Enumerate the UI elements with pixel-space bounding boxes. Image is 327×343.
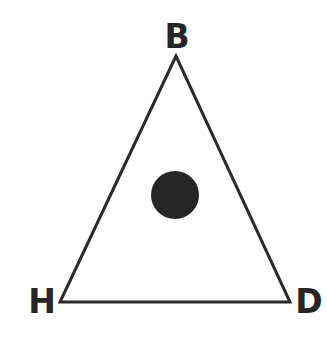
vertex-label-bottom-left: H [28,282,56,321]
center-dot [151,171,199,219]
triangle-diagram: B H D [0,0,327,343]
vertex-label-top: B [164,17,189,56]
vertex-label-bottom-right: D [295,282,322,321]
